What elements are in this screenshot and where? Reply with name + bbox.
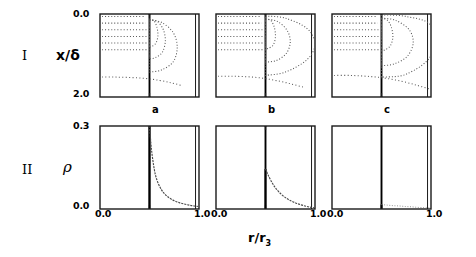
xaxis-label-main: r/r bbox=[248, 230, 266, 245]
panel-letter-b: b bbox=[268, 105, 275, 115]
panel-letter-c: c bbox=[384, 105, 390, 115]
series-group-II-a bbox=[150, 126, 200, 209]
row-label-II: II bbox=[22, 163, 32, 176]
series-group-II-b bbox=[266, 169, 316, 209]
xtick-a-left: 0.0 bbox=[95, 209, 111, 219]
yaxis-label-row-II: ρ bbox=[63, 160, 72, 175]
series-group-I-c bbox=[334, 15, 434, 90]
figure-svg bbox=[0, 0, 476, 257]
row-label-I: I bbox=[22, 49, 27, 62]
xaxis-label: r/r3 bbox=[248, 231, 271, 248]
ytick-row-I-top: 0.0 bbox=[73, 9, 89, 19]
series-group-I-a bbox=[102, 16, 181, 85]
series-group-I-b bbox=[218, 16, 315, 87]
xaxis-label-subscript: 3 bbox=[266, 239, 272, 248]
xtick-b-left: 0.0 bbox=[211, 209, 227, 219]
yaxis-label-row-I: x/δ bbox=[56, 48, 80, 62]
panel-letter-a: a bbox=[152, 105, 159, 115]
ytick-row-I-bottom: 2.0 bbox=[73, 89, 89, 99]
xtick-c-right: 1.0 bbox=[426, 209, 442, 219]
xtick-a-right: 1.0 bbox=[194, 209, 210, 219]
xtick-c-left: 0.0 bbox=[327, 209, 343, 219]
xtick-b-right: 1.0 bbox=[310, 209, 326, 219]
figure-container: I II x/δ 0.0 2.0 ρ 0.3 0.0 a b c 0.0 1.0… bbox=[0, 0, 476, 257]
ytick-row-II-top: 0.3 bbox=[73, 121, 89, 131]
ytick-row-II-bottom: 0.0 bbox=[73, 201, 89, 211]
